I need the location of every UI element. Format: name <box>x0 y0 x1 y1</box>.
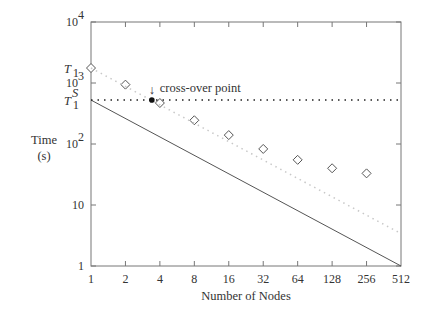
series-layer <box>87 64 402 266</box>
label-subscript: 1 <box>73 66 79 80</box>
y-axis: 110102103104 <box>66 8 401 273</box>
label-T1S: T <box>64 94 72 108</box>
y-axis-title-line1: Time <box>31 133 57 147</box>
label-subscript: 1 <box>73 98 79 112</box>
series-light-dotted-line <box>91 68 401 234</box>
y-tick-exponent: 2 <box>78 130 84 144</box>
data-point-diamond <box>121 80 130 89</box>
x-tick-label: 8 <box>191 272 197 286</box>
x-tick-label: 64 <box>292 272 304 286</box>
data-point-diamond <box>190 116 199 125</box>
cross-over-arrow-icon: ↓ <box>149 83 155 97</box>
data-point-diamond <box>224 131 233 140</box>
cross-over-marker <box>149 97 155 103</box>
data-point-diamond <box>293 155 302 164</box>
y-tick-exponent: 4 <box>78 8 84 22</box>
y-tick-label: 10 <box>72 198 84 212</box>
x-tick-label: 16 <box>223 272 235 286</box>
plot-border <box>91 22 401 266</box>
x-tick-label: 2 <box>122 272 128 286</box>
data-point-diamond <box>328 164 337 173</box>
label-superscript: S <box>72 86 79 100</box>
y-tick-label: 10 <box>66 137 78 151</box>
x-tick-label: 1 <box>88 272 94 286</box>
y-tick-label: 1 <box>78 259 84 273</box>
x-axis: 1248163264128256512 <box>88 22 410 286</box>
x-tick-label: 256 <box>358 272 376 286</box>
y-axis-title-line2: (s) <box>37 149 50 163</box>
data-point-diamond <box>362 169 371 178</box>
label-T1: T <box>64 62 72 76</box>
x-tick-label: 128 <box>323 272 341 286</box>
plot-frame <box>91 22 401 266</box>
x-axis-title: Number of Nodes <box>201 289 291 303</box>
cross-over-label: cross-over point <box>160 81 241 95</box>
x-tick-label: 512 <box>392 272 410 286</box>
x-tick-label: 32 <box>257 272 269 286</box>
x-tick-label: 4 <box>157 272 163 286</box>
data-point-diamond <box>259 144 268 153</box>
y-tick-label: 10 <box>66 15 78 29</box>
chart: 110102103104 1248163264128256512 T1T1S↓c… <box>0 0 429 314</box>
series-solid-line <box>91 100 401 266</box>
